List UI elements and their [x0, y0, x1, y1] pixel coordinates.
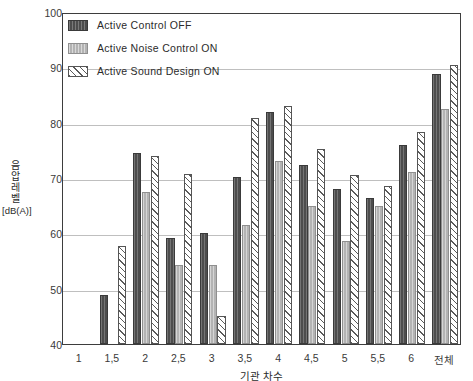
legend-item: Active Sound Design ON [68, 65, 220, 77]
y-tick-label-70: 70 [32, 173, 62, 185]
bar [284, 106, 292, 344]
bar [142, 192, 150, 344]
bar [350, 175, 358, 344]
legend-item: Active Control OFF [68, 19, 192, 31]
bar [133, 153, 141, 344]
x-tick-label-7: 4,5 [304, 352, 319, 364]
bar [417, 132, 425, 344]
x-tick-label-3: 2,5 [171, 352, 186, 364]
bar [308, 206, 316, 344]
bar [333, 189, 341, 344]
bar [151, 156, 159, 344]
x-tick-label-4: 3 [209, 352, 215, 364]
y-tick-label-60: 60 [32, 228, 62, 240]
legend-item-label: Active Control OFF [97, 19, 192, 31]
bar [200, 233, 208, 344]
x-tick-label-0: 1 [76, 352, 82, 364]
bar [450, 65, 458, 344]
y-tick-label-40: 40 [32, 339, 62, 351]
gridline-80 [63, 125, 460, 126]
y-axis-ticks: 100908070605040 [0, 0, 62, 381]
bar [166, 238, 174, 344]
legend-item-label: Active Noise Control ON [97, 42, 218, 54]
bar [441, 109, 449, 344]
bar [375, 206, 383, 344]
bar [233, 177, 241, 344]
x-tick-label-6: 4 [275, 352, 281, 364]
bar [299, 165, 307, 344]
bar [384, 186, 392, 344]
x-tick-label-2: 2 [142, 352, 148, 364]
legend-item: Active Noise Control ON [68, 42, 218, 54]
y-tick-label-90: 90 [32, 62, 62, 74]
bar [399, 145, 407, 344]
legend-item-label: Active Sound Design ON [97, 65, 220, 77]
bar [342, 241, 350, 344]
bar [408, 172, 416, 344]
x-tick-label-10: 6 [408, 352, 414, 364]
light-gray-swatch [68, 43, 88, 54]
bar [209, 265, 217, 344]
bar [317, 149, 325, 344]
bar [251, 118, 259, 344]
x-tick-label-9: 5,5 [371, 352, 386, 364]
bar [242, 225, 250, 344]
bar [184, 174, 192, 344]
bar [175, 265, 183, 344]
bar [266, 112, 274, 344]
y-tick-label-100: 100 [32, 7, 62, 19]
x-tick-label-11: 전체 [434, 352, 454, 367]
dark-solid-swatch [68, 20, 88, 31]
plot-area [62, 13, 461, 345]
bar [366, 198, 374, 344]
x-tick-label-8: 5 [342, 352, 348, 364]
y-tick-label-80: 80 [32, 118, 62, 130]
x-tick-label-1: 1,5 [105, 352, 120, 364]
bar-chart: 음 압 레 벨 [dB(A)] 100908070605040 11,522,5… [0, 0, 473, 381]
x-axis-title: 기관 차수 [202, 368, 322, 381]
bar [118, 246, 126, 344]
bar [275, 161, 283, 344]
bar [100, 295, 108, 344]
bar [217, 316, 225, 344]
y-tick-label-50: 50 [32, 284, 62, 296]
diagonal-hatch-swatch [68, 66, 88, 77]
x-tick-label-5: 3,5 [238, 352, 253, 364]
bar [432, 74, 440, 344]
